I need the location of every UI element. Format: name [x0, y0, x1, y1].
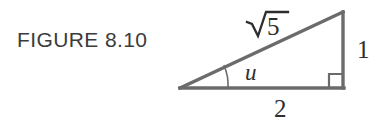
angle-arc — [224, 66, 228, 88]
hypotenuse-label: 5 — [267, 13, 280, 40]
right-angle-marker — [329, 74, 342, 87]
adjacent-side-label: 2 — [274, 95, 287, 122]
triangle-diagram: 5 1 2 u — [0, 0, 384, 126]
opposite-side-label: 1 — [357, 36, 370, 63]
angle-label: u — [245, 60, 257, 85]
figure-container: FIGURE 8.10 5 1 2 u — [0, 0, 384, 126]
